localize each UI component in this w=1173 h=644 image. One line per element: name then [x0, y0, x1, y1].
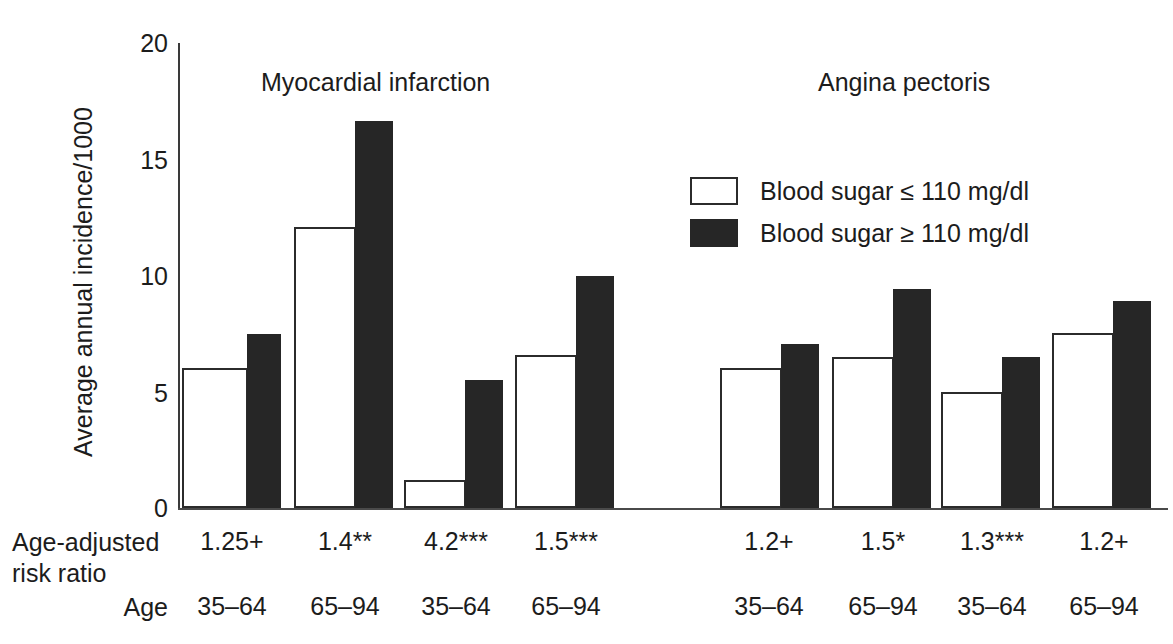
bar-dark-3 — [576, 276, 614, 508]
bar-dark-7 — [1113, 301, 1151, 508]
bar-dark-4 — [781, 344, 819, 508]
group-title-angina-pectoris: Angina pectoris — [818, 68, 990, 96]
risk-ratio-value-2: 4.2*** — [398, 527, 514, 555]
bar-dark-1 — [355, 121, 393, 508]
age-value-5: 65–94 — [828, 592, 938, 620]
risk-ratio-value-1: 1.4** — [290, 527, 400, 555]
bar-light-6 — [941, 392, 1003, 508]
age-value-0: 35–64 — [177, 592, 287, 620]
bar-light-4 — [720, 368, 782, 508]
y-tick-label-0: 0 — [128, 496, 168, 521]
y-tick-label-20: 20 — [128, 31, 168, 56]
bar-light-2 — [404, 480, 466, 508]
bar-dark-2 — [465, 380, 503, 508]
legend-item-1: Blood sugar ≥ 110 mg/dl — [690, 212, 1029, 254]
legend-item-0: Blood sugar ≤ 110 mg/dl — [690, 170, 1029, 212]
risk-ratio-row-label: Age-adjusted risk ratio — [12, 527, 159, 589]
y-tick-label-10: 10 — [128, 264, 168, 289]
y-axis-title: Average annual incidence/1000 — [69, 47, 97, 517]
risk-ratio-value-4: 1.2+ — [714, 527, 824, 555]
chart-figure: Average annual incidence/1000 20 15 10 5… — [0, 0, 1173, 644]
bar-light-7 — [1052, 333, 1114, 508]
risk-ratio-value-6: 1.3*** — [932, 527, 1052, 555]
bar-light-3 — [515, 355, 577, 508]
legend: Blood sugar ≤ 110 mg/dl Blood sugar ≥ 11… — [690, 170, 1029, 254]
legend-label-1: Blood sugar ≥ 110 mg/dl — [760, 219, 1029, 247]
group-title-myocardial-infarction: Myocardial infarction — [261, 68, 490, 96]
age-value-6: 35–64 — [932, 592, 1052, 620]
age-row-label: Age — [88, 592, 168, 623]
legend-label-0: Blood sugar ≤ 110 mg/dl — [760, 177, 1029, 205]
bar-dark-5 — [893, 289, 931, 508]
y-tick-label-5: 5 — [128, 381, 168, 406]
y-axis-line — [178, 43, 180, 510]
bar-light-5 — [832, 357, 894, 508]
y-tick-label-15: 15 — [128, 148, 168, 173]
age-value-7: 65–94 — [1049, 592, 1159, 620]
age-value-3: 65–94 — [508, 592, 624, 620]
age-value-4: 35–64 — [714, 592, 824, 620]
bar-dark-0 — [247, 334, 281, 508]
risk-ratio-value-7: 1.2+ — [1049, 527, 1159, 555]
risk-ratio-value-0: 1.25+ — [177, 527, 287, 555]
risk-ratio-value-3: 1.5*** — [508, 527, 624, 555]
bar-light-1 — [294, 227, 356, 508]
risk-ratio-value-5: 1.5* — [828, 527, 938, 555]
bar-dark-6 — [1002, 357, 1040, 508]
legend-swatch-dark-icon — [690, 219, 738, 247]
legend-swatch-light-icon — [690, 177, 738, 205]
age-value-1: 65–94 — [290, 592, 400, 620]
bar-light-0 — [182, 368, 248, 508]
age-value-2: 35–64 — [398, 592, 514, 620]
x-axis-baseline — [178, 508, 1168, 510]
